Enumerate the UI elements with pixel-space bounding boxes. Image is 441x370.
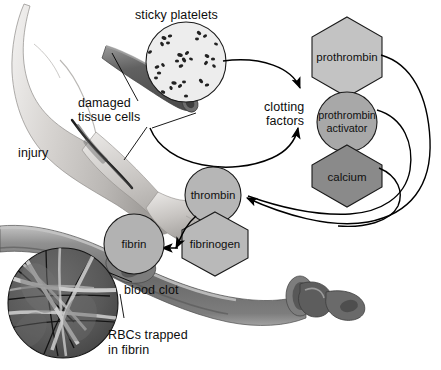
node-prothrombin-label: prothrombin: [316, 51, 377, 63]
node-prothrombin-activator[interactable]: prothrombin activator: [317, 92, 377, 152]
label-clotting-factors-line1: clotting: [264, 100, 304, 114]
label-damaged-tissue-cells-line2: tissue cells: [78, 110, 140, 124]
node-prothrombin-activator-label-1: prothrombin: [318, 109, 376, 121]
label-rbcs-trapped-line1: RBCs trapped: [108, 328, 188, 342]
label-blood-clot: blood clot: [124, 283, 179, 297]
node-thrombin-label: thrombin: [191, 189, 236, 201]
label-rbcs-trapped-line2: in fibrin: [108, 343, 149, 357]
node-prothrombin[interactable]: prothrombin: [312, 17, 382, 97]
node-prothrombin-activator-label-2: activator: [327, 122, 368, 134]
label-injury: injury: [18, 146, 48, 160]
label-sticky-platelets: sticky platelets: [135, 8, 218, 22]
node-fibrin-label: fibrin: [122, 238, 147, 250]
node-calcium[interactable]: calcium: [312, 145, 382, 207]
node-fibrin[interactable]: fibrin: [104, 214, 164, 274]
clotting-diagram-svg: prothrombin prothrombin activator calciu…: [0, 0, 441, 370]
rbcs-trapped-inset: [0, 246, 118, 358]
diagram-canvas: prothrombin prothrombin activator calciu…: [0, 0, 441, 370]
node-calcium-label: calcium: [328, 171, 367, 183]
sticky-platelets-inset: [146, 22, 226, 102]
node-fibrinogen-label: fibrinogen: [190, 238, 241, 250]
label-damaged-tissue-cells-line1: damaged: [78, 96, 131, 110]
label-clotting-factors-line2: factors: [266, 114, 304, 128]
